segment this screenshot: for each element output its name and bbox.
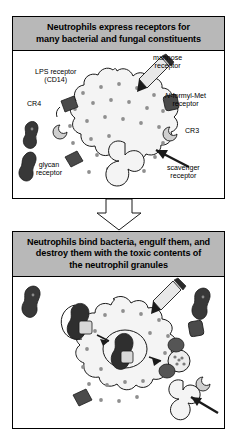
label-lps-line-2: (CD14) (35, 76, 76, 84)
bacterium-free-bottom-left (22, 286, 40, 317)
panel-bottom-header: Neutrophils bind bacteria, engulf them, … (13, 232, 224, 277)
panel-top-title-line-1: Neutrophils express receptors for (36, 22, 201, 33)
panel-top-header: Neutrophils express receptors for many b… (13, 17, 224, 51)
label-lps-line-1: LPS receptor (35, 68, 76, 76)
label-n-formyl-met-receptor: N-formyl-Met receptor (165, 92, 206, 109)
label-nformyl-line-1: N-formyl-Met (165, 92, 206, 100)
label-glycan-line-1: glycan (36, 161, 62, 169)
label-nformyl-line-2: receptor (165, 100, 206, 108)
phagocytosis-illustration (13, 277, 224, 429)
label-glycan-receptor: glycan receptor (36, 161, 62, 178)
glycan-receptor-icon-bottom (73, 389, 92, 406)
label-mannose-receptor: mannose receptor (153, 54, 182, 71)
label-cr4: CR4 (27, 100, 41, 108)
label-mannose-line-1: mannose (153, 54, 182, 62)
label-mannose-line-2: receptor (153, 62, 182, 70)
granule-fusing-top (168, 338, 184, 352)
connector-arrow (0, 199, 237, 231)
glycan-receptor-icon (65, 151, 83, 167)
panel-bottom-title: Neutrophils bind bacteria, engulf them, … (27, 237, 210, 271)
granule-fusing-bottom (159, 364, 175, 378)
mannose-receptor-icon-bottom (151, 278, 186, 314)
bacterium-free-lower-left (19, 152, 36, 181)
panel-top: Neutrophils express receptors for many b… (12, 16, 225, 199)
cr3-receptor-icon-bottom (196, 377, 210, 391)
label-cr4-text: CR4 (27, 100, 41, 108)
bacterium-free-left (23, 121, 38, 148)
cr4-receptor-icon (53, 125, 67, 139)
n-formyl-met-receptor-icon-bottom (188, 320, 204, 337)
scavenger-receptor-pointer-bottom (191, 397, 218, 413)
down-arrow-icon (97, 199, 141, 230)
panel-bottom-title-line-3: the neutrophil granules (27, 260, 210, 271)
label-cr3: CR3 (185, 127, 199, 135)
bacterium-free-bottom-right (192, 288, 210, 319)
panel-top-title-line-2: many bacterial and fungal constituents (36, 34, 201, 45)
label-cr3-text: CR3 (185, 127, 199, 135)
panel-bottom-title-line-2: destroy them with the toxic contents of (27, 248, 210, 259)
bacterium-being-engulfed (67, 303, 92, 339)
panel-bottom-stage (13, 277, 224, 445)
label-lps-receptor: LPS receptor (CD14) (35, 68, 76, 85)
label-scavenger-line-2: receptor (167, 172, 200, 180)
panel-bottom: Neutrophils bind bacteria, engulf them, … (12, 231, 225, 429)
panel-bottom-title-line-1: Neutrophils bind bacteria, engulf them, … (27, 237, 210, 248)
label-scavenger-line-1: scavenger (167, 164, 200, 172)
lps-receptor-stalk (56, 107, 60, 117)
label-scavenger-receptor: scavenger receptor (167, 164, 200, 181)
label-glycan-line-2: receptor (36, 169, 62, 177)
figure-root: Neutrophils express receptors for many b… (0, 0, 237, 445)
panel-top-title: Neutrophils express receptors for many b… (36, 22, 201, 45)
